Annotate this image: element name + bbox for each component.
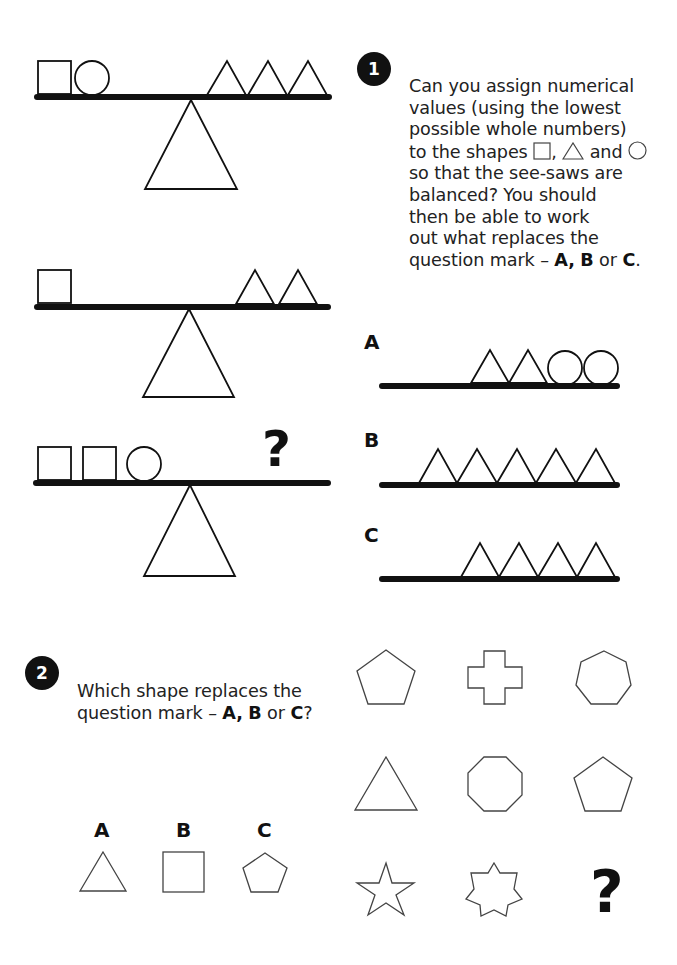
fulcrum (143, 309, 234, 397)
grid-pentagon (357, 650, 415, 704)
square-icon (533, 142, 551, 160)
text-line: balanced? You should (409, 185, 669, 207)
triangle-shape (288, 61, 327, 95)
text-line: so that the see-saws are (409, 163, 669, 185)
text-span: to the shapes (409, 142, 528, 162)
square-shape (38, 61, 71, 94)
option-a-triangle[interactable] (80, 852, 126, 891)
option-ref-b: B (580, 250, 593, 270)
option-label-a[interactable]: A (364, 330, 379, 354)
grid-5-point-star (357, 863, 414, 915)
circle-shape (75, 61, 109, 95)
triangle-shape (576, 449, 615, 483)
text-line: Can you assign numerical (409, 76, 669, 98)
triangle-shape (509, 350, 547, 383)
circle-icon (628, 141, 647, 160)
text-line: to the shapes , and (409, 141, 669, 164)
option-label-b[interactable]: B (364, 428, 379, 452)
grid-octagon (468, 757, 522, 811)
option-label-a[interactable]: A (94, 818, 109, 842)
text-line: out what replaces the (409, 228, 669, 250)
circle-shape (548, 351, 582, 385)
option-ref-b: B (248, 703, 261, 723)
text-span: and (590, 142, 623, 162)
fulcrum (144, 485, 235, 576)
text-line: Which shape replaces the (77, 681, 347, 703)
option-b-square[interactable] (163, 852, 204, 892)
text-line: possible whole numbers) (409, 119, 669, 141)
option-ref-a: A, (554, 250, 574, 270)
triangle-shape (536, 449, 576, 483)
square-shape (38, 270, 71, 303)
option-c-beam[interactable] (382, 543, 617, 579)
grid-cross (468, 651, 522, 704)
triangle-shape (236, 270, 274, 304)
seesaw-2 (37, 270, 328, 397)
grid-7-point-star (466, 863, 522, 916)
triangle-shape (419, 449, 457, 483)
text-line: then be able to work (409, 207, 669, 229)
square-shape (38, 447, 71, 480)
text-span: or (599, 250, 617, 270)
option-label-b[interactable]: B (176, 818, 191, 842)
triangle-shape (207, 61, 246, 95)
text-span: . (635, 250, 641, 270)
option-c-pentagon[interactable] (243, 853, 287, 892)
text-span: question mark – (409, 250, 549, 270)
triangle-shape (248, 61, 287, 95)
option-ref-a: A, (222, 703, 242, 723)
circle-shape (127, 447, 161, 481)
text-line: question mark – A, B or C? (77, 703, 347, 725)
triangle-shape (279, 270, 317, 304)
circle-shape (584, 351, 618, 385)
text-line: values (using the lowest (409, 98, 669, 120)
text-span: or (267, 703, 285, 723)
question-number-badge: 1 (357, 52, 391, 86)
triangle-shape (457, 449, 497, 483)
triangle-shape (499, 543, 538, 577)
option-b-beam[interactable] (382, 449, 617, 485)
option-ref-c: C (622, 250, 635, 270)
question-number-badge: 2 (25, 656, 59, 690)
triangle-shape (461, 543, 499, 577)
grid-heptagon (576, 651, 631, 704)
grid-triangle (355, 757, 417, 810)
question-mark: ? (262, 420, 291, 478)
option-label-c[interactable]: C (364, 523, 379, 547)
seesaw-1 (37, 61, 329, 189)
question-1-text: Can you assign numerical values (using t… (409, 76, 669, 271)
text-line: question mark – A, B or C. (409, 250, 669, 272)
fulcrum (145, 100, 237, 189)
option-a-beam[interactable] (382, 350, 618, 386)
triangle-shape (538, 543, 577, 577)
triangle-shape (497, 449, 536, 483)
option-ref-c: C (290, 703, 303, 723)
comma: , (551, 142, 557, 162)
question-2-text: Which shape replaces the question mark –… (77, 681, 347, 724)
grid-pentagon (574, 757, 632, 811)
text-span: ? (303, 703, 312, 723)
triangle-shape (577, 543, 615, 577)
square-shape (83, 447, 116, 480)
triangle-icon (562, 142, 584, 160)
option-label-c[interactable]: C (257, 818, 272, 842)
question-mark: ? (590, 858, 624, 926)
triangle-shape (471, 350, 509, 383)
text-span: question mark – (77, 703, 217, 723)
